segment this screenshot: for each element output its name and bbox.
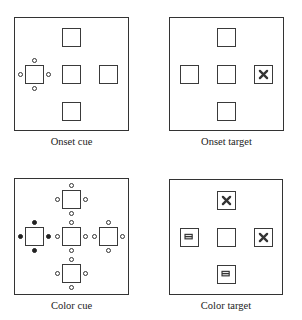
equals-target-icon — [218, 266, 235, 283]
placeholder-box-bottom — [62, 264, 81, 283]
open-cue-dot-icon — [69, 257, 74, 262]
open-cue-dot-icon — [55, 197, 60, 202]
filled-cue-dot-icon — [18, 234, 23, 239]
placeholder-box-center — [217, 65, 236, 84]
placeholder-box-left — [180, 65, 199, 84]
panel-caption: Onset cue — [14, 136, 129, 147]
placeholder-box-top — [62, 28, 81, 47]
placeholder-box-left — [180, 228, 199, 247]
placeholder-box-center — [217, 228, 236, 247]
open-cue-dot-icon — [106, 220, 111, 225]
placeholder-box-top — [62, 190, 81, 209]
open-cue-dot-icon — [69, 285, 74, 290]
placeholder-box-bottom — [217, 102, 236, 121]
placeholder-box-bottom — [62, 102, 81, 121]
open-cue-dot-icon — [120, 234, 125, 239]
open-cue-dot-icon — [55, 234, 60, 239]
placeholder-box-top — [217, 28, 236, 47]
x-target-icon — [255, 66, 272, 83]
placeholder-box-bottom — [217, 265, 236, 284]
open-cue-dot-icon — [92, 234, 97, 239]
filled-cue-dot-icon — [32, 220, 37, 225]
placeholder-box-center — [62, 65, 81, 84]
placeholder-box-left — [25, 227, 44, 246]
placeholder-box-top — [217, 191, 236, 210]
filled-cue-dot-icon — [46, 234, 51, 239]
placeholder-box-right — [254, 228, 273, 247]
panel-caption: Color target — [169, 300, 283, 311]
panel-caption: Color cue — [14, 300, 129, 311]
panel-caption: Onset target — [169, 136, 284, 147]
open-cue-dot-icon — [32, 58, 37, 63]
open-cue-dot-icon — [46, 72, 51, 77]
open-cue-dot-icon — [55, 271, 60, 276]
filled-cue-dot-icon — [32, 248, 37, 253]
open-cue-dot-icon — [69, 220, 74, 225]
placeholder-box-left — [25, 65, 44, 84]
open-cue-dot-icon — [69, 248, 74, 253]
open-cue-dot-icon — [69, 211, 74, 216]
open-cue-dot-icon — [83, 197, 88, 202]
x-target-icon — [218, 192, 235, 209]
x-target-icon — [255, 229, 272, 246]
placeholder-box-right — [99, 65, 118, 84]
placeholder-box-right — [99, 227, 118, 246]
open-cue-dot-icon — [83, 234, 88, 239]
open-cue-dot-icon — [83, 271, 88, 276]
open-cue-dot-icon — [18, 72, 23, 77]
placeholder-box-right — [254, 65, 273, 84]
equals-target-icon — [181, 229, 198, 246]
open-cue-dot-icon — [32, 86, 37, 91]
open-cue-dot-icon — [106, 248, 111, 253]
open-cue-dot-icon — [69, 183, 74, 188]
placeholder-box-center — [62, 227, 81, 246]
